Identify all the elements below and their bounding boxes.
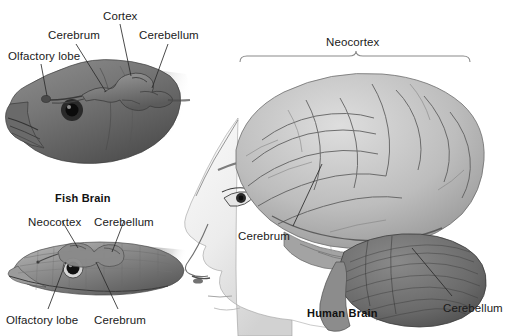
label-fish-olfactory-lobe: Olfactory lobe [8,50,80,62]
label-human-neocortex: Neocortex [326,36,379,48]
leader-human-cerebellum [412,248,452,296]
leader-fish-cerebellum [152,44,168,88]
label-fish-cortex: Cortex [103,10,137,22]
label-lizard-cerebellum: Cerebellum [94,216,154,228]
caption-fish-brain: Fish Brain [55,192,111,204]
label-fish-cerebrum: Cerebrum [48,29,100,41]
leader-lizard-cerebrum [96,262,118,309]
label-lizard-neocortex: Neocortex [28,216,81,228]
label-lizard-olfactory-lobe: Olfactory lobe [6,314,78,326]
leader-fish-olfactory [41,64,47,96]
leader-human-cerebrum [293,164,322,226]
leader-fish-cerebrum [76,44,106,92]
leader-lizard-olfactory [48,262,66,309]
caption-human-brain: Human Brain [307,307,378,319]
label-human-cerebrum: Cerebrum [238,230,290,242]
label-lizard-cerebrum: Cerebrum [94,314,146,326]
label-human-cerebellum: Cerebellum [443,302,503,314]
label-fish-cerebellum: Cerebellum [139,29,199,41]
leader-fish-cortex [120,24,131,76]
comparative-brain-anatomy-figure: Olfactory lobe Cerebrum Cortex Cerebellu… [0,0,506,336]
